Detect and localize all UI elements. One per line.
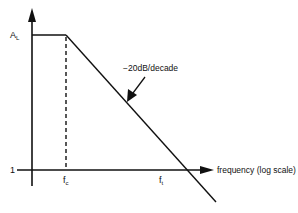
x-axis-arrow-icon [200,166,214,174]
y-axis-unity-label: 1 [10,165,15,175]
rolloff-line [66,35,216,202]
x-axis-label: frequency (log scale) [217,165,296,175]
y-axis-top-label: AL [10,30,19,41]
annotation-arrow-icon [127,89,137,102]
bode-diagram: AL 1 fc ft frequency (log scale) −20dB/d… [0,0,298,213]
fc-label: fc [63,175,69,186]
ft-label: ft [159,175,163,186]
bode-plot-graphics [0,0,298,213]
slope-annotation: −20dB/decade [123,63,178,73]
y-axis-arrow-icon [28,8,36,22]
annotation-arrow-shaft [133,77,145,93]
